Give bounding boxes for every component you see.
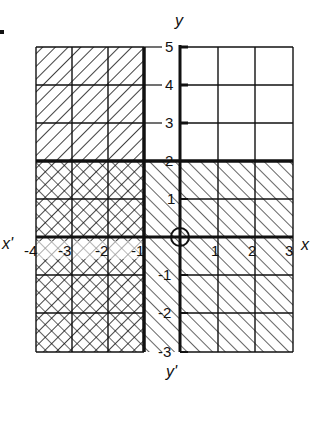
y-tick-1: 1 xyxy=(167,190,175,207)
x-tick-neg3: -3 xyxy=(58,242,71,259)
x-tick-1: 1 xyxy=(211,242,219,259)
x-tick-2: 2 xyxy=(248,242,256,259)
x-tick-neg4: -4 xyxy=(24,242,37,259)
x-axis-label: x xyxy=(300,236,310,253)
y-tick-4: 4 xyxy=(165,76,173,93)
y-tick-2: 2 xyxy=(165,152,173,169)
x-tick-3: 3 xyxy=(285,242,293,259)
inequality-region-diagram: y y' x' x -4 -3 -2 -1 1 2 3 5 4 3 2 1 -1… xyxy=(0,0,322,423)
y-tick-5: 5 xyxy=(165,38,173,55)
x-label-band xyxy=(36,241,144,259)
x-tick-neg1: -1 xyxy=(131,242,144,259)
y-tick-3: 3 xyxy=(165,114,173,131)
label-column xyxy=(144,47,180,161)
y-axis-label: y xyxy=(174,12,184,29)
bullet-dot xyxy=(0,30,4,34)
y-tick-neg1: -1 xyxy=(158,266,171,283)
x-tick-neg2: -2 xyxy=(95,242,108,259)
y-tick-neg2: -2 xyxy=(158,304,171,321)
y-tick-neg3: -3 xyxy=(158,343,171,360)
region-left-backslash xyxy=(36,47,144,161)
x-neg-axis-label: x' xyxy=(1,235,14,252)
y-neg-axis-label: y' xyxy=(165,363,178,380)
